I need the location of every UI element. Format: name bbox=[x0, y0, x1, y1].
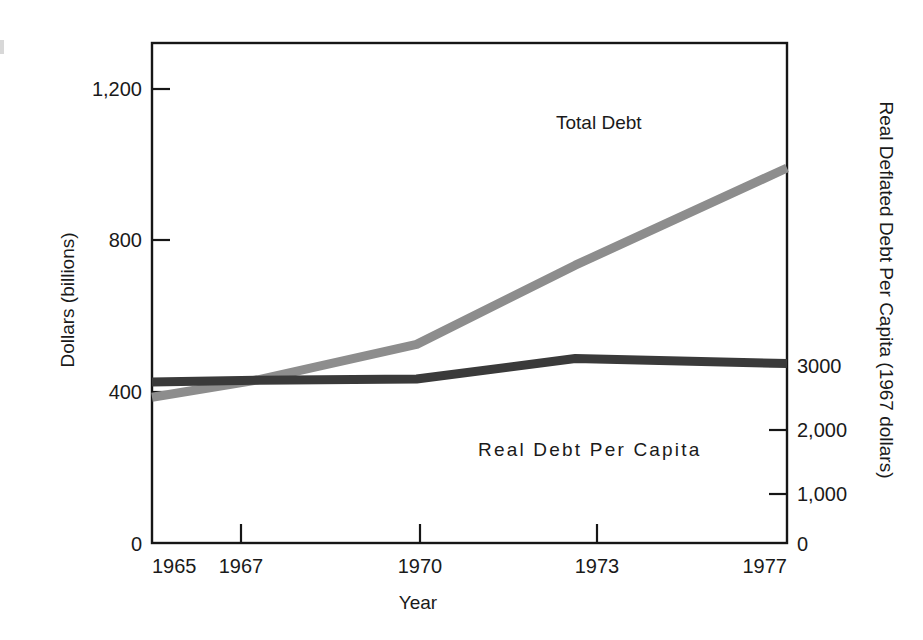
right-tick-label-0: 0 bbox=[797, 533, 808, 555]
series-line-real-debt-per-capita bbox=[152, 359, 787, 383]
scan-artifact bbox=[0, 40, 4, 54]
right-tick-label-1000: 1,000 bbox=[797, 483, 847, 505]
series-label-real-debt-per-capita: Real Debt Per Capita bbox=[478, 439, 702, 460]
x-axis-ticks bbox=[241, 524, 597, 543]
left-tick-label-0: 0 bbox=[131, 533, 142, 555]
right-axis-ticks bbox=[769, 366, 787, 494]
chart-figure: 1,200 800 400 0 3000 2,000 1,000 0 1965 … bbox=[0, 0, 923, 640]
left-axis-ticks bbox=[152, 89, 170, 392]
left-tick-label-1200: 1,200 bbox=[92, 78, 142, 100]
x-tick-label-1965: 1965 bbox=[152, 555, 197, 577]
series-label-total-debt: Total Debt bbox=[556, 112, 642, 133]
y-axis-right-title: Real Deflated Debt Per Capita (1967 doll… bbox=[876, 101, 897, 478]
line-chart-svg: 1,200 800 400 0 3000 2,000 1,000 0 1965 … bbox=[0, 0, 923, 640]
left-tick-label-800: 800 bbox=[109, 229, 142, 251]
right-tick-label-3000: 3000 bbox=[797, 355, 842, 377]
x-tick-label-1967: 1967 bbox=[219, 555, 264, 577]
x-axis-tick-labels: 1965 1967 1970 1973 1977 bbox=[152, 555, 787, 577]
left-axis-tick-labels: 1,200 800 400 0 bbox=[92, 78, 142, 555]
left-tick-label-400: 400 bbox=[109, 381, 142, 403]
right-axis-tick-labels: 3000 2,000 1,000 0 bbox=[797, 355, 847, 555]
series-paths bbox=[152, 168, 787, 397]
x-tick-label-1977: 1977 bbox=[743, 555, 788, 577]
plot-frame bbox=[152, 43, 787, 543]
x-tick-label-1970: 1970 bbox=[398, 555, 443, 577]
x-tick-label-1973: 1973 bbox=[575, 555, 620, 577]
right-tick-label-2000: 2,000 bbox=[797, 419, 847, 441]
x-axis-title: Year bbox=[399, 592, 438, 613]
y-axis-left-title: Dollars (billions) bbox=[57, 232, 78, 367]
